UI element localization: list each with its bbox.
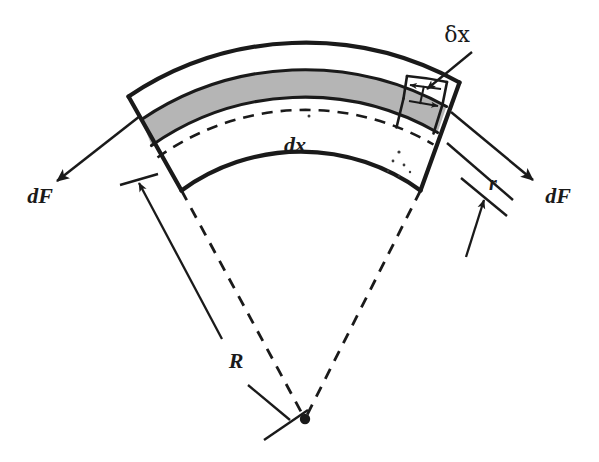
- center-of-curvature-dot: [300, 414, 310, 424]
- curved-beam-diagram: δx dx r R dF dF: [0, 0, 599, 462]
- radius-left-dashed: [182, 191, 306, 420]
- beam-body: [129, 43, 460, 191]
- figure-root: δx dx r R dF dF: [0, 0, 599, 462]
- dF-right-arrow[interactable]: [451, 112, 533, 180]
- r-extension-line: [447, 143, 513, 200]
- r-witness-tick: [461, 178, 507, 216]
- label-R: R: [228, 348, 244, 373]
- dF-left-arrow[interactable]: [57, 116, 140, 181]
- R-dimension-line-lower: [248, 385, 290, 420]
- label-dx: dx: [284, 132, 306, 157]
- r-dimension-arrow[interactable]: [466, 200, 484, 257]
- radius-right-dashed: [305, 191, 421, 420]
- R-dimension-arrow-upper[interactable]: [139, 183, 222, 339]
- label-dF-left: dF: [27, 183, 53, 208]
- label-r: r: [489, 172, 497, 194]
- label-dF-right: dF: [545, 183, 571, 208]
- R-witness-tick-bottom: [264, 410, 308, 440]
- label-delta-x: δx: [444, 22, 470, 47]
